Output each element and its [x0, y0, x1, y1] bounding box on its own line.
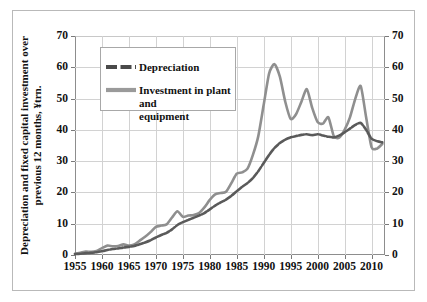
x-axis-tick-label: 1985 — [225, 261, 248, 273]
y-axis-right-tick-label: 50 — [392, 93, 404, 105]
tick-bottom — [345, 255, 346, 259]
y-axis-left-tick-label: 40 — [57, 124, 69, 136]
y-axis-right-tick-label: 10 — [392, 218, 404, 230]
x-axis-tick-label: 1990 — [252, 261, 275, 273]
tick-bottom — [372, 255, 373, 259]
legend-entry-investment: Investment in plant and equipment — [106, 84, 235, 123]
tick-bottom — [237, 255, 238, 259]
tick-bottom — [291, 255, 292, 259]
x-axis-tick-label: 1975 — [171, 261, 194, 273]
plot-area-wrapper: 010203040506070 010203040506070 19551960… — [75, 36, 385, 255]
tick-right — [385, 36, 389, 37]
y-axis-title: Depreciation and fixed capital investmen… — [14, 36, 48, 255]
y-axis-left-tick-label: 30 — [57, 155, 69, 167]
dashed-line-swatch — [106, 62, 136, 72]
tick-bottom — [129, 255, 130, 259]
x-axis-tick-label: 1980 — [198, 261, 221, 273]
x-axis-tick-label: 2005 — [333, 261, 356, 273]
tick-right — [385, 99, 389, 100]
tick-right — [385, 161, 389, 162]
tick-bottom — [102, 255, 103, 259]
tick-bottom — [75, 255, 76, 259]
x-axis-tick-label: 2010 — [360, 261, 383, 273]
tick-right — [385, 255, 389, 256]
legend-entry-depreciation: Depreciation — [106, 61, 199, 74]
legend-label-depreciation: Depreciation — [139, 61, 199, 74]
x-axis-tick-label: 1955 — [64, 261, 87, 273]
y-axis-left-tick-label: 0 — [62, 249, 68, 261]
tick-right — [385, 67, 389, 68]
x-axis-tick-label: 2000 — [306, 261, 329, 273]
y-axis-right-tick-label: 60 — [392, 61, 404, 73]
y-axis-left-tick-label: 70 — [57, 30, 69, 42]
tick-right — [385, 224, 389, 225]
chart-figure: Depreciation and fixed capital investmen… — [0, 0, 427, 302]
tick-bottom — [318, 255, 319, 259]
solid-line-swatch — [106, 85, 136, 95]
chart-legend: Depreciation Investment in plant and equ… — [100, 47, 236, 111]
y-axis-right-tick-label: 0 — [392, 249, 398, 261]
x-axis-tick-label: 1960 — [90, 261, 113, 273]
y-axis-left-tick-label: 20 — [57, 186, 69, 198]
tick-right — [385, 192, 389, 193]
tick-bottom — [156, 255, 157, 259]
tick-right — [385, 130, 389, 131]
legend-label-investment: Investment in plant and equipment — [139, 84, 235, 123]
y-axis-right-tick-label: 20 — [392, 186, 404, 198]
tick-bottom — [210, 255, 211, 259]
y-axis-right-tick-label: 30 — [392, 155, 404, 167]
y-axis-right-tick-label: 40 — [392, 124, 404, 136]
y-axis-left-tick-label: 50 — [57, 93, 69, 105]
tick-bottom — [264, 255, 265, 259]
x-axis-tick-label: 1970 — [144, 261, 167, 273]
y-axis-left-tick-label: 10 — [57, 218, 69, 230]
x-axis-tick-label: 1995 — [279, 261, 302, 273]
tick-bottom — [183, 255, 184, 259]
x-axis-tick-label: 1965 — [117, 261, 140, 273]
y-axis-left-tick-label: 60 — [57, 61, 69, 73]
y-axis-right-tick-label: 70 — [392, 30, 404, 42]
